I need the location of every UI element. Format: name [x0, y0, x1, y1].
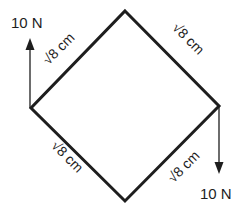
force-arrow-up-icon [26, 38, 35, 108]
side-label-bottom-right: √8 cm [164, 147, 202, 185]
side-label-top-left: √8 cm [39, 29, 77, 67]
force-label-right: 10 N [200, 185, 232, 202]
diagram-canvas: 10 N 10 N √8 cm √8 cm √8 cm √8 cm [0, 0, 251, 208]
force-couple-diagram: 10 N 10 N √8 cm √8 cm √8 cm √8 cm [0, 0, 251, 208]
force-arrow-down-icon [215, 106, 224, 174]
force-label-left: 10 N [11, 14, 43, 31]
side-label-top-right: √8 cm [169, 19, 207, 57]
